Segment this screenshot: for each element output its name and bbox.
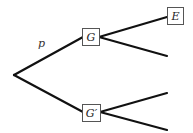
node-g-label: G <box>87 31 96 44</box>
node-g: G <box>83 29 100 46</box>
edge-g-prime-to-leaf-1 <box>100 93 167 112</box>
edge-label-p: p <box>38 37 45 50</box>
node-g-prime: G′ <box>83 105 101 122</box>
edge-g-prime-to-leaf-2 <box>100 112 167 130</box>
edge-g-to-e <box>99 17 167 37</box>
node-e: E <box>168 8 184 25</box>
node-e-label: E <box>170 10 179 23</box>
probability-tree-diagram: p G G′ E <box>0 0 193 133</box>
edge-root-to-g-prime <box>14 75 83 112</box>
node-g-prime-label: G′ <box>86 107 98 120</box>
edge-root-to-g <box>14 37 83 75</box>
edge-g-to-leaf-2 <box>99 37 167 56</box>
